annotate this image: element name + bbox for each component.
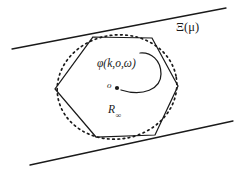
- geometry-figure: Ξ(μ) φ(k,o,ω) o R∞: [0, 0, 237, 173]
- radius-symbol: R: [108, 103, 115, 115]
- radius-label: R∞: [108, 104, 121, 118]
- radius-subscript: ∞: [116, 111, 122, 120]
- figure-canvas: [0, 0, 237, 173]
- boundary-family-label: Ξ(μ): [176, 21, 199, 34]
- lower-tangent-line: [30, 121, 233, 165]
- origin-label: o: [107, 81, 112, 90]
- origin-marker: [115, 86, 119, 90]
- potential-function-label: φ(k,o,ω): [97, 58, 136, 70]
